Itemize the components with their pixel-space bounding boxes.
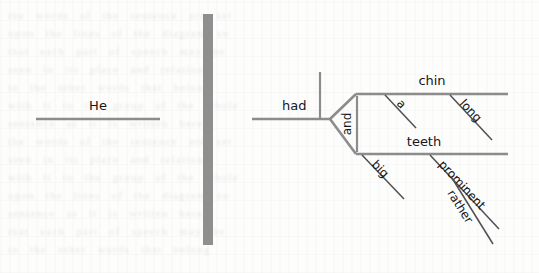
label-and: and [340,113,354,136]
label-he: He [89,98,107,113]
label-teeth: teeth [407,134,441,149]
vertical-separator-bar [203,14,213,245]
subject-group: He [36,98,160,119]
label-chin: chin [418,73,445,88]
label-a: a [394,96,409,111]
predicate-group: had and chin a long teeth big [252,72,508,244]
sentence-diagram: He had and chin a long [0,0,539,273]
label-long: long [457,96,485,124]
diagram-page: the words of the sentence are set upon t… [0,0,539,273]
label-had: had [282,98,306,113]
label-big: big [369,157,392,180]
